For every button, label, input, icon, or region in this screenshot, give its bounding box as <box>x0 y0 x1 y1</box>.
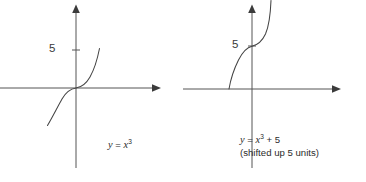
x-axis-right <box>183 85 341 93</box>
equation-label-right: y = x3 + 5 (shifted up 5 units) <box>240 133 319 159</box>
left-plot-svg <box>0 0 183 182</box>
y-axis-left <box>72 5 80 169</box>
y-axis-arrowhead-icon <box>248 5 256 14</box>
x-axis-left <box>0 84 161 92</box>
equation-label-left: y = x3 <box>108 138 132 152</box>
figure-canvas: 5 y = x3 5 y = x3 + 5 <box>0 0 366 182</box>
y-axis-tick-label-5-left: 5 <box>49 43 56 55</box>
y-axis-tick-label-5-right: 5 <box>232 39 239 51</box>
graph-panel-left: 5 y = x3 <box>0 0 183 182</box>
y-axis-arrowhead-icon <box>72 5 80 14</box>
equation-right-constant: 5 <box>275 134 280 145</box>
x-axis-arrowhead-icon <box>152 84 161 92</box>
equation-left-exponent: 3 <box>128 138 132 145</box>
curve-y-equals-x-cubed <box>48 49 100 126</box>
equation-right-note: (shifted up 5 units) <box>240 147 319 160</box>
graph-panel-right: 5 y = x3 + 5 (shifted up 5 units) <box>183 0 366 182</box>
x-axis-arrowhead-icon <box>332 85 341 93</box>
